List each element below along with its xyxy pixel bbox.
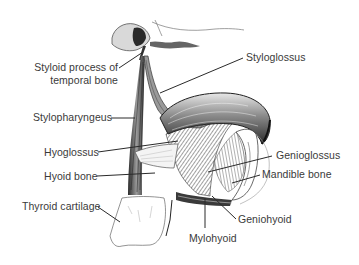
- label-mylohyoid: Mylohyoid: [189, 232, 237, 244]
- label-styloid-process-line1: Styloid process of: [22, 61, 118, 73]
- illustration: [0, 0, 359, 265]
- leader-hyoid-bone: [97, 173, 155, 176]
- leader-styloglossus: [160, 58, 243, 93]
- label-thyroid-cartilage: Thyroid cartilage: [22, 200, 100, 212]
- label-stylopharyngeus: Stylopharyngeus: [33, 111, 112, 123]
- temporal-bone-fragment: [112, 20, 244, 51]
- label-genioglossus: Genioglossus: [276, 149, 340, 161]
- label-styloid-process-line2: temporal bone: [22, 74, 118, 86]
- thyroid-cartilage: [110, 197, 166, 247]
- label-mandible-bone: Mandible bone: [262, 168, 332, 180]
- label-styloglossus: Styloglossus: [246, 51, 306, 63]
- label-hyoid-bone: Hyoid bone: [44, 170, 98, 182]
- anatomy-diagram: Styloid process of temporal bone Stylogl…: [0, 0, 359, 265]
- label-geniohyoid: Geniohyoid: [238, 213, 292, 225]
- label-hyoglossus: Hyoglossus: [44, 146, 99, 158]
